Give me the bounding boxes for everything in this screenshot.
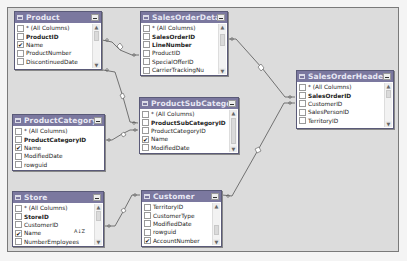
column-row[interactable]: * (All Columns) (141, 24, 227, 32)
scroll-up-icon[interactable]: ▲ (213, 203, 220, 209)
table-header[interactable]: Store (13, 192, 103, 203)
column-checkbox[interactable] (15, 153, 22, 160)
column-checkbox[interactable]: ✔ (17, 41, 24, 48)
column-row[interactable]: ModifiedDate (142, 220, 221, 228)
column-row[interactable]: ✔Name (13, 144, 104, 152)
minimize-button[interactable] (228, 100, 236, 107)
scrollbar-thumb[interactable] (94, 31, 99, 41)
column-row[interactable]: TerritoryID (297, 117, 393, 125)
scrollbar[interactable]: ▲▼ (212, 203, 220, 245)
table-productsubcategory[interactable]: ProductSubCategory * (All Columns)Produc… (139, 97, 239, 154)
column-row[interactable]: ✔AccountNumber (142, 237, 221, 245)
column-row[interactable]: ProductNumber (15, 49, 101, 57)
column-checkbox[interactable] (15, 213, 22, 220)
column-checkbox[interactable] (15, 205, 22, 212)
column-row[interactable]: DiscontinuedDate (15, 58, 101, 66)
column-checkbox[interactable] (299, 84, 306, 91)
column-checkbox[interactable] (142, 127, 149, 134)
column-checkbox[interactable]: ✔ (15, 230, 22, 237)
column-checkbox[interactable] (15, 128, 22, 135)
column-row[interactable]: NumberEmployees (13, 238, 103, 246)
column-checkbox[interactable]: ✔ (144, 237, 151, 244)
column-row[interactable]: * (All Columns) (13, 127, 104, 135)
column-checkbox[interactable] (144, 204, 151, 211)
table-header[interactable]: ProductCategory (13, 115, 104, 126)
table-header[interactable]: SalesOrderHeader (297, 71, 393, 82)
scroll-up-icon[interactable]: ▲ (385, 83, 392, 89)
column-row[interactable]: rowguid (13, 161, 104, 169)
column-row[interactable]: TerritoryID (142, 203, 221, 211)
scroll-down-icon[interactable]: ▼ (95, 239, 102, 245)
table-product[interactable]: Product * (All Columns)ProductID✔NamePro… (14, 11, 102, 70)
column-checkbox[interactable] (143, 58, 150, 65)
scrollbar[interactable]: ▲▼ (92, 24, 100, 68)
column-checkbox[interactable] (143, 41, 150, 48)
column-row[interactable]: ModifiedDate (13, 152, 104, 160)
column-checkbox[interactable] (143, 67, 150, 74)
column-row[interactable]: * (All Columns) (140, 110, 238, 118)
minimize-button[interactable] (94, 117, 102, 124)
column-row[interactable]: CarrierTrackingNu (141, 66, 227, 74)
column-row[interactable]: SalesOrderID (141, 32, 227, 40)
column-checkbox[interactable] (143, 33, 150, 40)
scrollbar-thumb[interactable] (220, 34, 225, 46)
scroll-up-icon[interactable]: ▲ (93, 24, 100, 30)
column-checkbox[interactable] (299, 109, 306, 116)
scroll-down-icon[interactable]: ▼ (385, 121, 392, 127)
scroll-down-icon[interactable]: ▼ (93, 62, 100, 68)
column-row[interactable]: ProductID (15, 32, 101, 40)
column-row[interactable]: ModifiedDate (140, 144, 238, 152)
column-checkbox[interactable] (299, 117, 306, 124)
column-row[interactable]: * (All Columns) (297, 83, 393, 91)
scroll-down-icon[interactable]: ▼ (219, 68, 226, 74)
scroll-up-icon[interactable]: ▲ (219, 24, 226, 30)
column-checkbox[interactable] (17, 50, 24, 57)
column-checkbox[interactable] (142, 119, 149, 126)
scrollbar[interactable]: ▲▼ (94, 204, 102, 245)
column-row[interactable]: CustomerType (142, 211, 221, 219)
scroll-up-icon[interactable]: ▲ (95, 204, 102, 210)
table-salesorderheader[interactable]: SalesOrderHeader * (All Columns)SalesOrd… (296, 70, 394, 129)
column-checkbox[interactable] (15, 161, 22, 168)
table-productcategory[interactable]: ProductCategory * (All Columns)ProductCa… (12, 114, 105, 171)
column-checkbox[interactable] (142, 111, 149, 118)
column-checkbox[interactable] (299, 92, 306, 99)
column-row[interactable]: * (All Columns) (13, 204, 103, 212)
column-row[interactable]: rowguid (142, 228, 221, 236)
column-checkbox[interactable] (17, 25, 24, 32)
column-checkbox[interactable]: ✔ (142, 136, 149, 143)
scrollbar[interactable]: ▲▼ (218, 24, 226, 74)
column-row[interactable]: ProductID (141, 49, 227, 57)
table-salesorderdetail[interactable]: SalesOrderDetail * (All Columns)SalesOrd… (140, 11, 228, 76)
column-row[interactable]: ✔Name (13, 229, 103, 237)
minimize-button[interactable] (217, 14, 225, 21)
table-store[interactable]: Store * (All Columns)StoreIDCustomerID✔N… (12, 191, 104, 247)
column-row[interactable]: CustomerID (297, 100, 393, 108)
column-row[interactable]: ProductSubCategoryID (140, 118, 238, 126)
column-row[interactable]: ✔Name (15, 41, 101, 49)
column-checkbox[interactable] (143, 50, 150, 57)
minimize-button[interactable] (93, 194, 101, 201)
column-row[interactable]: ProductCategoryID (140, 127, 238, 135)
column-checkbox[interactable] (142, 144, 149, 151)
scrollbar-thumb[interactable] (231, 118, 236, 144)
scrollbar[interactable]: ▲▼ (229, 110, 237, 152)
scrollbar[interactable]: ▲▼ (384, 83, 392, 127)
column-row[interactable]: ✔Name (140, 135, 238, 143)
column-row[interactable]: SalesOrderID (297, 91, 393, 99)
column-row[interactable]: ProductCategoryID (13, 135, 104, 143)
minimize-button[interactable] (383, 73, 391, 80)
column-checkbox[interactable] (143, 25, 150, 32)
column-checkbox[interactable] (15, 221, 22, 228)
scroll-down-icon[interactable]: ▼ (230, 146, 237, 152)
scroll-up-icon[interactable]: ▲ (230, 110, 237, 116)
column-row[interactable]: SalesPersonID (297, 108, 393, 116)
scrollbar-thumb[interactable] (214, 225, 219, 235)
minimize-button[interactable] (211, 193, 219, 200)
scrollbar-thumb[interactable] (386, 90, 391, 98)
column-row[interactable]: CustomerID (13, 221, 103, 229)
column-checkbox[interactable] (299, 100, 306, 107)
column-checkbox[interactable] (15, 136, 22, 143)
column-row[interactable]: * (All Columns) (15, 24, 101, 32)
minimize-button[interactable] (91, 14, 99, 21)
